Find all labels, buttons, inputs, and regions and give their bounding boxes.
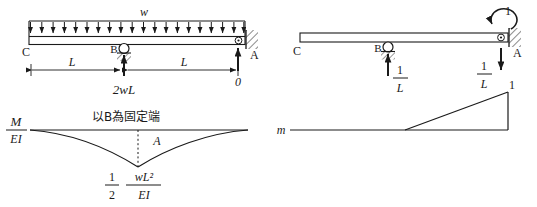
axis-label-m-over-ei: M EI xyxy=(6,114,27,146)
reaction-label-a: 0 xyxy=(235,75,241,89)
fixed-support-right xyxy=(246,30,258,49)
applied-moment-label: 1 xyxy=(505,4,511,18)
node-label-b: B xyxy=(110,43,117,55)
axis-label-denominator: EI xyxy=(9,132,22,146)
node-label-a: A xyxy=(513,46,522,60)
axis-label-numerator: M xyxy=(10,114,23,129)
node-label-b: B xyxy=(374,42,381,54)
figure-canvas: w xyxy=(0,0,537,207)
m-diagram-triangle xyxy=(405,92,508,130)
peak-right-numerator: wL² xyxy=(135,170,154,184)
panel-top-left-real-load-beam: w xyxy=(22,5,259,97)
fixed-support-right xyxy=(509,28,521,47)
reaction-label-a: 1 L xyxy=(477,59,492,91)
distributed-load-box xyxy=(29,21,245,36)
distributed-load-arrows xyxy=(31,22,244,33)
node-label-c: C xyxy=(22,45,30,59)
peak-value-fraction: 1 2 wL² EI xyxy=(105,170,161,202)
reaction-b-denominator: L xyxy=(396,81,404,95)
panel-bottom-left-m-over-ei: M EI 以B為固定端 A 1 2 wL² xyxy=(6,109,248,202)
svg-text:2wL: 2wL xyxy=(113,82,135,97)
reaction-b-numerator: 1 xyxy=(397,63,403,77)
hinge-pin-icon xyxy=(235,37,242,44)
axis-label-m: m xyxy=(277,123,286,137)
fixed-end-note: 以B為固定端 xyxy=(92,109,160,124)
peak-right-denominator: EI xyxy=(137,188,150,202)
area-label: A xyxy=(152,134,161,148)
applied-moment-arrow xyxy=(491,9,517,29)
peak-left-numerator: 1 xyxy=(109,170,115,184)
dimension-label-left: L xyxy=(68,55,76,69)
node-label-c: C xyxy=(293,44,301,58)
panel-top-right-unit-moment-beam: 1 C B A xyxy=(293,4,522,95)
engineering-figure: w xyxy=(0,0,537,207)
beam-member xyxy=(29,37,245,45)
beam-member xyxy=(300,33,508,42)
dimension-line xyxy=(31,62,238,76)
node-label-a: A xyxy=(250,48,259,62)
m-over-ei-curve xyxy=(30,130,248,167)
dimension-label-right: L xyxy=(180,55,188,69)
reaction-label-b: 1 L xyxy=(393,63,408,95)
m-diagram-peak-label: 1 xyxy=(509,78,515,92)
reaction-a-denominator: L xyxy=(480,77,488,91)
distributed-load-label: w xyxy=(140,5,148,19)
peak-left-denominator: 2 xyxy=(109,188,115,202)
reaction-a-numerator: 1 xyxy=(481,59,487,73)
hinge-pin-icon xyxy=(498,34,505,41)
reaction-label-b: 2wL xyxy=(113,82,135,97)
